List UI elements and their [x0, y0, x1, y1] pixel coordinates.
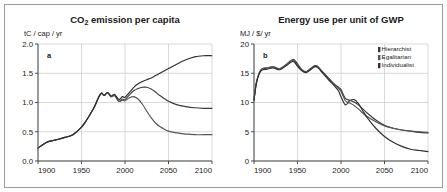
x-tick-label: 2000 — [332, 166, 350, 175]
chart-panel-a: CO2 emission per capitatC / cap / yr0.00… — [5, 5, 224, 189]
x-tick-label: 2050 — [376, 166, 394, 175]
chart-title: CO2 emission per capita — [70, 14, 180, 26]
chart-panel-b: Energy use per unit of GWPMJ / $/ yr0510… — [221, 5, 440, 189]
y-tick-label: 0.5 — [22, 128, 34, 137]
x-tick-label: 1900 — [254, 166, 272, 175]
y-tick-label: 2.0 — [22, 40, 34, 49]
x-tick-label: 2000 — [116, 166, 134, 175]
legend-label: Egalitarian — [382, 53, 412, 60]
x-tick-label: 1950 — [289, 166, 307, 175]
y-tick-label: 0 — [245, 157, 250, 166]
chart-title: Energy use per unit of GWP — [278, 14, 404, 25]
y-tick-label: 0.0 — [22, 157, 34, 166]
legend-label: Individualist — [382, 61, 415, 68]
y-tick-label: 1.5 — [22, 69, 34, 78]
x-tick-label: 1900 — [38, 166, 56, 175]
figure-outer-frame: CO2 emission per capitatC / cap / yr0.00… — [4, 4, 443, 188]
y-axis-label: MJ / $/ yr — [240, 29, 271, 38]
panel-letter: b — [263, 51, 268, 60]
figure-container: CO2 emission per capitatC / cap / yr0.00… — [0, 0, 447, 192]
legend-swatch — [378, 55, 380, 60]
y-tick-label: 15 — [240, 69, 249, 78]
x-tick-label: 2050 — [160, 166, 178, 175]
legend-swatch — [378, 47, 380, 52]
y-axis-label: tC / cap / yr — [24, 29, 63, 38]
legend-swatch — [378, 63, 380, 68]
legend-label: Hierarchist — [382, 45, 412, 52]
y-tick-label: 20 — [240, 40, 249, 49]
y-tick-label: 10 — [240, 98, 249, 107]
x-tick-label: 1950 — [73, 166, 91, 175]
y-tick-label: 1.0 — [22, 98, 34, 107]
x-tick-label: 2100 — [411, 166, 429, 175]
x-tick-label: 2100 — [195, 166, 213, 175]
panel-letter: a — [47, 51, 52, 60]
y-tick-label: 5 — [245, 128, 250, 137]
